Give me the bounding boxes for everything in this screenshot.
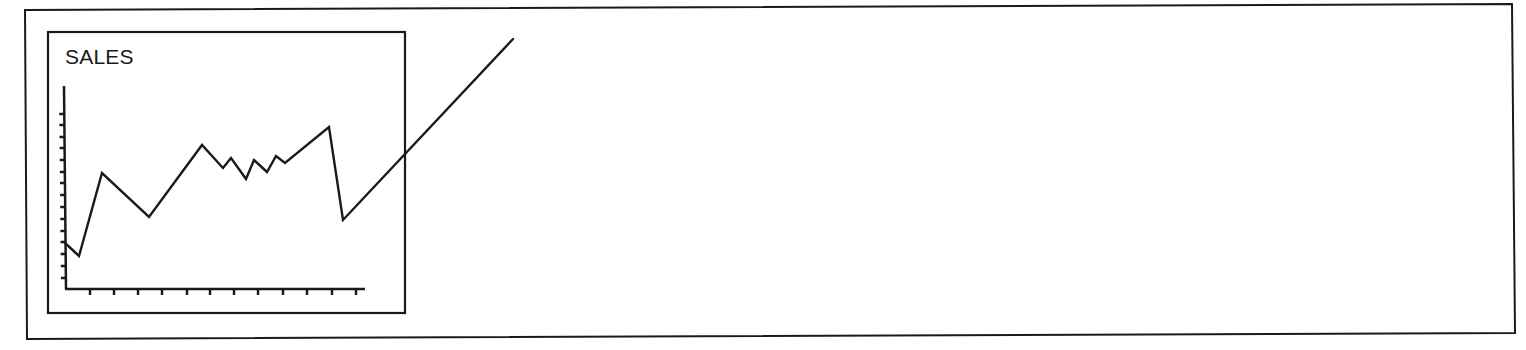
y-axis	[59, 86, 66, 289]
sales-chart-illustration	[0, 0, 1526, 350]
sales-data-line	[65, 39, 513, 256]
chart-title: SALES	[65, 45, 134, 69]
x-axis	[65, 289, 365, 295]
y-axis-line	[64, 86, 66, 289]
